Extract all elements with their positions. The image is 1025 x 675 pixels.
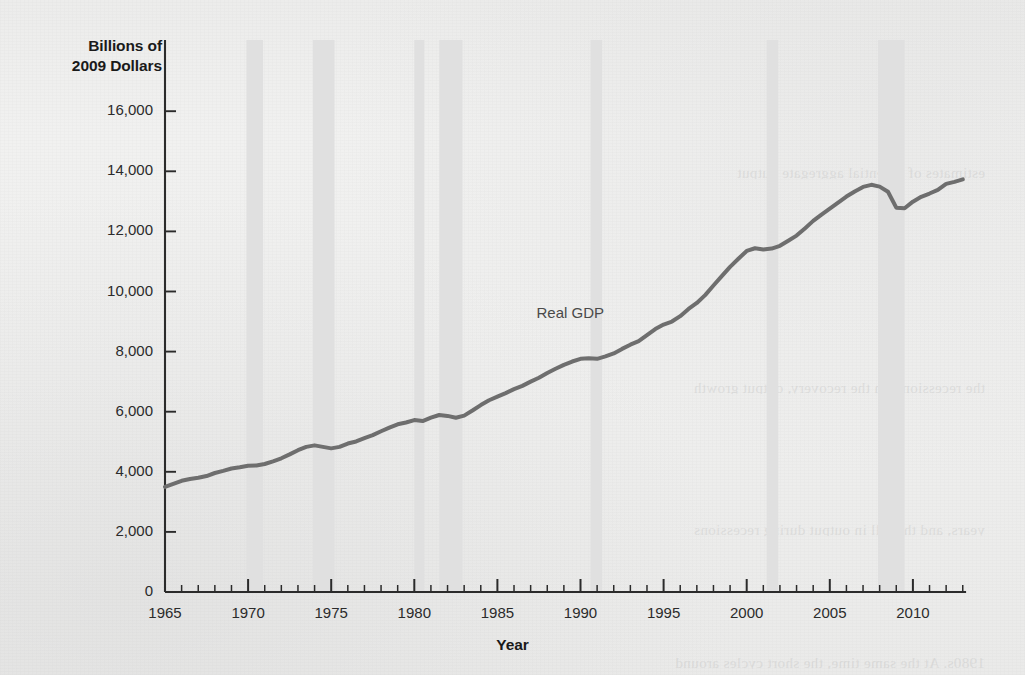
recession-band xyxy=(439,40,462,592)
x-axis-title: Year xyxy=(0,636,1025,654)
y-axis-tick-label: 8,000 xyxy=(61,342,153,359)
x-axis-tick-label: 2005 xyxy=(800,604,860,621)
y-axis-tick-label: 4,000 xyxy=(61,462,153,479)
recession-band xyxy=(313,40,335,592)
y-axis-tick-label: 14,000 xyxy=(61,161,153,178)
x-axis-tick-label: 1995 xyxy=(634,604,694,621)
recession-band xyxy=(878,40,905,592)
x-axis-tick-label: 1985 xyxy=(467,604,527,621)
y-axis-title-line-2: 2009 Dollars xyxy=(54,56,162,76)
gdp-series-group xyxy=(165,179,963,486)
x-axis-tick-label: 2000 xyxy=(717,604,777,621)
real-gdp-line xyxy=(165,179,963,486)
figure-page: estimates of potential aggregate output … xyxy=(0,0,1025,675)
real-gdp-series-label: Real GDP xyxy=(537,304,605,321)
x-axis-tick-label: 2010 xyxy=(883,604,943,621)
recession-band xyxy=(767,40,779,592)
y-axis-tick-label: 16,000 xyxy=(61,101,153,118)
y-axis-tick-label: 12,000 xyxy=(61,221,153,238)
x-axis-tick-label: 1980 xyxy=(384,604,444,621)
recession-band xyxy=(414,40,424,592)
y-axis-title: Billions of 2009 Dollars xyxy=(54,36,162,76)
y-axis-tick-label: 6,000 xyxy=(61,402,153,419)
x-axis-tick-label: 1975 xyxy=(301,604,361,621)
x-axis-tick-label: 1970 xyxy=(218,604,278,621)
x-axis-tick-label: 1965 xyxy=(135,604,195,621)
y-axis-tick-label: 2,000 xyxy=(61,522,153,539)
real-gdp-line-chart xyxy=(0,0,1025,675)
y-axis-title-line-1: Billions of xyxy=(54,36,162,56)
recession-band xyxy=(246,40,263,592)
x-axis-tick-label: 1990 xyxy=(551,604,611,621)
y-axis-tick-label: 10,000 xyxy=(61,282,153,299)
y-axis-tick-label: 0 xyxy=(61,582,153,599)
